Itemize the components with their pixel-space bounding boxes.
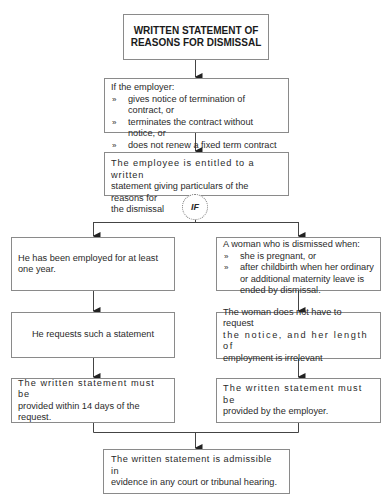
if-decision-node: IF	[182, 194, 208, 220]
fourteen-days-box: The written statement must be provided w…	[11, 378, 175, 423]
no-request-line-1: The woman does not have to request	[223, 307, 374, 330]
condition-item: »terminates the contract without notice,…	[111, 117, 282, 140]
request-statement-box: He requests such a statement	[11, 312, 175, 358]
fourteen-days-line-1: The written statement must be	[18, 378, 168, 401]
no-request-line-3: employment is irrelevant	[223, 353, 374, 365]
title-line-1: WRITTEN STATEMENT OF	[131, 25, 262, 38]
conditions-list: »gives notice of termination of contract…	[111, 94, 282, 152]
admissible-line-1: The written statement is admissible in	[111, 454, 283, 477]
title-box: WRITTEN STATEMENT OF REASONS FOR DISMISS…	[123, 14, 269, 60]
employment-length-text: He has been employed for at least one ye…	[18, 253, 168, 276]
no-request-line-2: the notice, and her length of	[223, 330, 374, 353]
employer-conditions-box: If the employer: »gives notice of termin…	[104, 78, 289, 133]
admissible-evidence-box: The written statement is admissible in e…	[103, 449, 290, 494]
conditions-intro: If the employer:	[111, 82, 282, 94]
admissible-line-2: evidence in any court or tribunal hearin…	[111, 477, 283, 489]
employer-provides-line-1: The written statement must be	[223, 383, 374, 406]
employer-provides-line-2: provided by the employer.	[223, 406, 374, 418]
bullet-icon: »	[112, 117, 116, 129]
condition-item: »does not renew a fixed term contract	[111, 140, 282, 152]
entitlement-box: The employee is entitled to a written st…	[104, 152, 289, 196]
pregnancy-item: »she is pregnant, or	[223, 251, 374, 263]
bullet-icon: »	[112, 140, 116, 152]
bullet-icon: »	[224, 262, 228, 274]
employer-provides-box: The written statement must be provided b…	[216, 378, 381, 423]
bullet-icon: »	[112, 94, 116, 106]
if-label: IF	[191, 202, 199, 212]
pregnancy-intro: A woman who is dismissed when:	[223, 239, 374, 251]
no-request-needed-box: The woman does not have to request the n…	[216, 312, 381, 359]
employment-length-box: He has been employed for at least one ye…	[11, 237, 175, 291]
bullet-icon: »	[224, 251, 228, 263]
pregnancy-list: »she is pregnant, or »after childbirth w…	[223, 251, 374, 297]
request-statement-text: He requests such a statement	[32, 329, 154, 341]
fourteen-days-line-2: provided within 14 days of the request.	[18, 401, 168, 424]
condition-item: »gives notice of termination of contract…	[111, 94, 282, 117]
entitlement-line-1: The employee is entitled to a written	[111, 158, 282, 181]
pregnancy-item: »after childbirth when her ordinary or a…	[223, 262, 374, 297]
title-line-2: REASONS FOR DISMISSAL	[131, 37, 262, 50]
pregnancy-conditions-box: A woman who is dismissed when: »she is p…	[216, 237, 381, 291]
